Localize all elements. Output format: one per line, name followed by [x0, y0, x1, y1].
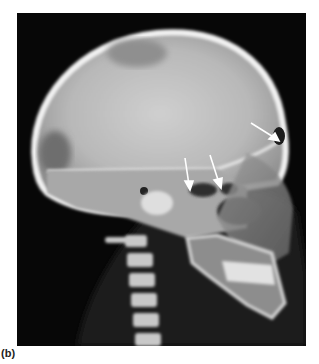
xray-image [17, 13, 306, 346]
xray-svg [17, 13, 306, 346]
occipital-shadow [39, 131, 71, 175]
sphenoid-sinus [189, 183, 217, 197]
mastoid [141, 191, 173, 215]
vault-shadow [107, 39, 167, 67]
figure-label: (b) [1, 346, 15, 360]
